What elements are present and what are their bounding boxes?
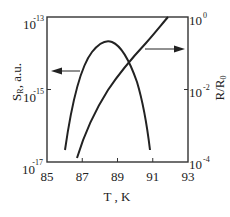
svg-text:-2: -2 xyxy=(203,83,210,92)
svg-text:0: 0 xyxy=(203,11,207,20)
plot-frame xyxy=(47,17,188,162)
left-y-tick-labels: 10 -13 10 -15 10 -17 xyxy=(22,14,44,177)
svg-text:10: 10 xyxy=(189,157,202,172)
svg-text:91: 91 xyxy=(146,169,159,184)
svg-text:87: 87 xyxy=(76,169,90,184)
x-tick-labels: 85 87 89 91 93 xyxy=(41,169,195,184)
left-axis-arrow xyxy=(51,68,80,75)
right-y-axis-title: R/R0 xyxy=(212,76,228,101)
svg-text:85: 85 xyxy=(41,169,54,184)
svg-text:10: 10 xyxy=(189,85,202,100)
noise-curve xyxy=(65,41,150,150)
right-axis-arrow xyxy=(145,46,185,53)
svg-text:10: 10 xyxy=(189,13,202,28)
svg-text:-13: -13 xyxy=(33,14,44,23)
svg-text:89: 89 xyxy=(111,169,124,184)
svg-text:-15: -15 xyxy=(33,87,44,96)
chart: 85 87 89 91 93 10 -13 10 -15 10 -17 10 0… xyxy=(0,0,230,217)
resistance-curve xyxy=(77,17,168,158)
svg-text:-17: -17 xyxy=(32,158,43,167)
left-y-axis-title: SR, a.u. xyxy=(9,63,25,101)
svg-text:-4: -4 xyxy=(203,155,210,164)
x-axis-title: T , K xyxy=(104,189,131,204)
right-y-tick-labels: 10 0 10 -2 10 -4 xyxy=(189,11,210,172)
